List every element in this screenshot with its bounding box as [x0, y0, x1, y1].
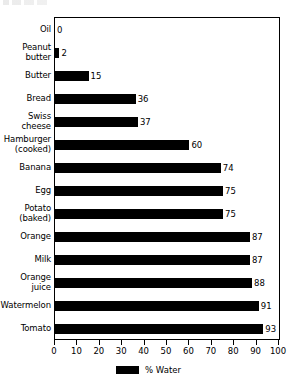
bar-value-label: 2: [61, 48, 66, 58]
chart-legend: % Water: [0, 363, 297, 377]
category-label: Potato (baked): [0, 204, 51, 222]
category-label: Tomato: [0, 324, 51, 333]
bar: [55, 209, 223, 219]
bar: [55, 186, 223, 196]
bar: [55, 48, 59, 58]
bars-layer: 02153637607475758787889193: [55, 18, 279, 340]
x-tick-label: 0: [51, 346, 56, 357]
category-label: Butter: [0, 71, 51, 80]
x-tick-mark: [144, 340, 145, 345]
x-tick-label: 60: [183, 346, 194, 357]
bar-value-label: 91: [261, 301, 272, 311]
bar-value-label: 36: [138, 94, 149, 104]
category-label: Orange: [0, 232, 51, 241]
bar: [55, 278, 252, 288]
bar: [55, 94, 136, 104]
x-tick-label: 40: [138, 346, 149, 357]
x-tick-mark: [76, 340, 77, 345]
bar-value-label: 93: [265, 324, 276, 334]
bar-value-label: 37: [140, 117, 151, 127]
bar-value-label: 0: [57, 25, 62, 35]
x-tick-mark: [54, 340, 55, 345]
bar-value-label: 75: [225, 186, 236, 196]
category-label: Watermelon: [0, 301, 51, 310]
category-label: Oil: [0, 25, 51, 34]
bar-value-label: 74: [223, 163, 234, 173]
bar-value-label: 88: [254, 278, 265, 288]
bar: [55, 117, 138, 127]
x-tick-label: 50: [161, 346, 172, 357]
category-label: Hamburger (cooked): [0, 135, 51, 153]
x-tick-label: 30: [116, 346, 127, 357]
category-label: Banana: [0, 163, 51, 172]
x-tick-label: 100: [270, 346, 286, 357]
legend-label-percent-water: % Water: [145, 365, 181, 375]
x-tick-label: 10: [71, 346, 82, 357]
x-tick-mark: [211, 340, 212, 345]
category-label: Bread: [0, 94, 51, 103]
x-tick-label: 80: [228, 346, 239, 357]
bar-value-label: 87: [252, 232, 263, 242]
x-tick-mark: [166, 340, 167, 345]
x-tick-mark: [278, 340, 279, 345]
x-tick-label: 90: [250, 346, 261, 357]
bar: [55, 324, 263, 334]
category-axis-labels: OilPeanut butterButterBreadSwiss cheeseH…: [0, 18, 51, 340]
category-label: Egg: [0, 186, 51, 195]
bar: [55, 140, 189, 150]
bar-value-label: 87: [252, 255, 263, 265]
x-tick-mark: [99, 340, 100, 345]
x-tick-label: 20: [93, 346, 104, 357]
bar: [55, 232, 250, 242]
x-axis-tick-labels: 0102030405060708090100: [0, 346, 297, 358]
category-label: Milk: [0, 255, 51, 264]
x-tick-mark: [256, 340, 257, 345]
bar-value-label: 60: [191, 140, 202, 150]
x-axis-tick-marks: [54, 340, 280, 345]
x-tick-label: 70: [205, 346, 216, 357]
bar: [55, 255, 250, 265]
x-tick-mark: [121, 340, 122, 345]
bar-value-label: 15: [91, 71, 102, 81]
x-tick-mark: [188, 340, 189, 345]
bar: [55, 163, 221, 173]
water-content-bar-chart: OilPeanut butterButterBreadSwiss cheeseH…: [0, 0, 297, 381]
bar: [55, 71, 89, 81]
category-label: Orange juice: [0, 273, 51, 291]
x-tick-mark: [233, 340, 234, 345]
legend-swatch-percent-water: [116, 366, 139, 374]
bar-value-label: 75: [225, 209, 236, 219]
bar: [55, 301, 259, 311]
category-label: Peanut butter: [0, 43, 51, 61]
cropped-caption-artifact: [3, 0, 47, 5]
category-label: Swiss cheese: [0, 112, 51, 130]
